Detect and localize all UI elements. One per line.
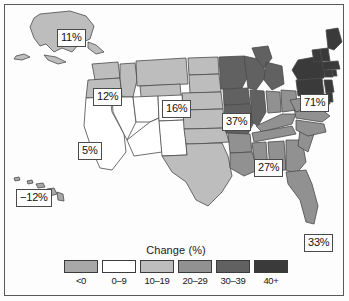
legend-title: Change (%) xyxy=(60,244,292,256)
callout-territory: 33% xyxy=(304,234,333,252)
legend-label: <0 xyxy=(64,275,98,286)
callout-southeast: 27% xyxy=(254,159,283,177)
map-region xyxy=(133,96,159,122)
map-region xyxy=(250,90,266,126)
callout-hawaii: −12% xyxy=(16,189,52,207)
legend-swatch xyxy=(216,260,250,273)
map-region xyxy=(326,28,342,50)
callout-oregon: 12% xyxy=(93,88,122,106)
map-region xyxy=(136,58,188,86)
legend-item: 0–9 xyxy=(102,260,136,286)
map-region xyxy=(223,88,250,105)
map-region xyxy=(228,133,252,153)
callout-colorado: 5% xyxy=(78,142,102,160)
map-region xyxy=(159,120,187,156)
legend-swatch xyxy=(64,260,98,273)
map-region xyxy=(266,91,281,113)
callout-northeast: 71% xyxy=(300,94,329,112)
map-region xyxy=(92,62,120,80)
map-region xyxy=(286,170,318,224)
legend-swatch xyxy=(140,260,174,273)
map-region xyxy=(189,74,221,93)
us-change-choropleth-figure: 11% 12% 16% 37% 71% 5% 27% −12% 33% Chan… xyxy=(0,0,349,301)
legend-item: 20–29 xyxy=(178,260,212,286)
map-region xyxy=(219,56,248,89)
legend-swatch xyxy=(254,260,288,273)
legend-item: 40+ xyxy=(254,260,288,286)
callout-midwest: 37% xyxy=(222,113,251,131)
legend-item: 10–19 xyxy=(140,260,174,286)
callout-north-plains: 16% xyxy=(162,100,191,118)
legend-swatch xyxy=(102,260,136,273)
legend-item: 30–39 xyxy=(216,260,250,286)
map-region xyxy=(320,48,330,61)
legend-label: 40+ xyxy=(254,275,288,286)
legend-items: <00–910–1920–2930–3940+ xyxy=(60,260,292,286)
callout-alaska: 11% xyxy=(57,29,86,47)
legend-swatch xyxy=(178,260,212,273)
map-region xyxy=(324,80,334,93)
map-region xyxy=(324,70,333,77)
legend-label: 30–39 xyxy=(216,275,250,286)
map-region xyxy=(120,63,137,97)
legend-item: <0 xyxy=(64,260,98,286)
legend-label: 20–29 xyxy=(178,275,212,286)
legend-label: 0–9 xyxy=(102,275,136,286)
legend-label: 10–19 xyxy=(140,275,174,286)
map-region xyxy=(322,61,340,70)
map-legend: Change (%) <00–910–1920–2930–3940+ xyxy=(60,244,292,286)
map-region xyxy=(332,70,337,76)
map-region xyxy=(188,57,219,75)
